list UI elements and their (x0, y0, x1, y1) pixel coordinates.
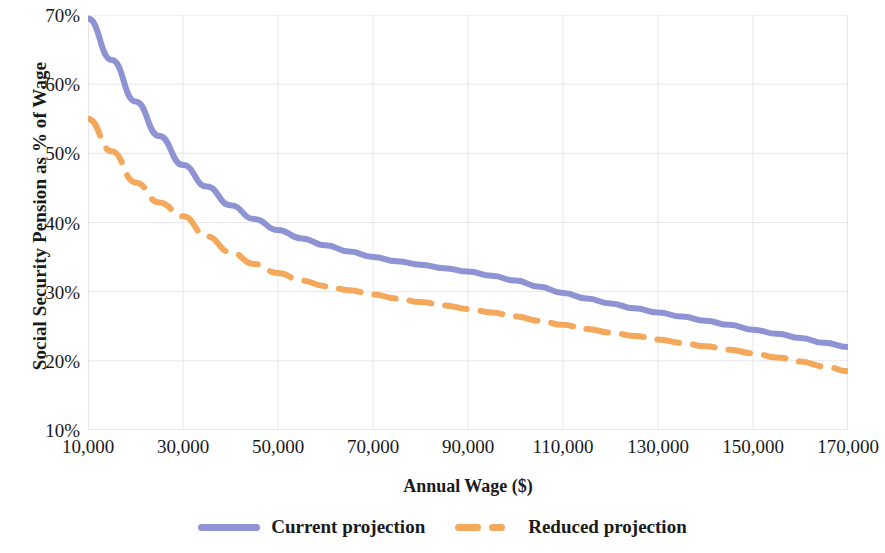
legend-label: Reduced projection (528, 516, 687, 538)
legend-item-2[interactable]: Reduced projection (455, 516, 687, 538)
legend-label: Current projection (271, 516, 425, 538)
legend-swatch-solid (198, 524, 260, 531)
x-axis-tick-labels: 10,00030,00050,00070,00090,000110,000130… (0, 0, 885, 553)
chart-container: Social Security Pension as % of Wage 10%… (0, 0, 885, 553)
legend-item-1[interactable]: Current projection (198, 516, 425, 538)
x-axis-title: Annual Wage ($) (88, 476, 848, 497)
x-tick-label: 170,000 (788, 437, 885, 456)
legend-swatch-dashed (455, 524, 517, 531)
chart-legend: Current projectionReduced projection (0, 516, 885, 538)
